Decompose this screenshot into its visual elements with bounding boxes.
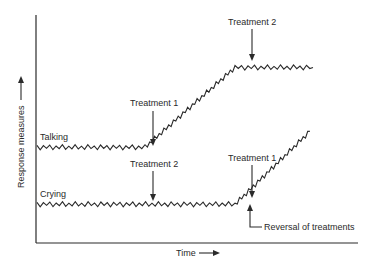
y-axis-label-group: Response measures xyxy=(16,76,26,188)
arrow-down-icon xyxy=(150,194,156,201)
annotation-crying-treatment-2: Treatment 2 xyxy=(130,159,178,169)
annotation-talking-treatment-1: Treatment 1 xyxy=(130,98,178,108)
series-crying xyxy=(37,131,310,207)
chart: Response measures Time Talking Crying Tr… xyxy=(0,0,369,262)
annotation-reversal-of-treatments: Reversal of treatments xyxy=(264,222,355,232)
y-axis-label-arrow-icon xyxy=(18,76,24,83)
series-label-crying: Crying xyxy=(40,189,66,199)
annotation-reversal-bracket xyxy=(250,210,262,227)
annotation-crying-treatment-1: Treatment 1 xyxy=(228,153,276,163)
arrow-down-icon xyxy=(249,191,255,198)
arrow-up-icon xyxy=(247,204,253,211)
annotation-talking-treatment-2: Treatment 2 xyxy=(228,17,276,27)
x-axis-label: Time xyxy=(176,248,196,258)
x-axis-label-arrow-icon xyxy=(213,250,220,256)
arrow-down-icon xyxy=(249,54,255,61)
x-axis-label-group: Time xyxy=(176,248,220,258)
y-axis-label: Response measures xyxy=(16,105,26,188)
series-label-talking: Talking xyxy=(40,132,68,142)
